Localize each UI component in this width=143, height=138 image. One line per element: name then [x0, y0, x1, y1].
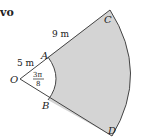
length-OA: 5 m	[17, 58, 35, 68]
length-AC: 9 m	[52, 29, 70, 39]
label-C: C	[104, 14, 112, 25]
label-D: D	[107, 125, 116, 136]
header-fragment: vo	[0, 6, 14, 19]
label-B: B	[41, 100, 49, 111]
angle-numerator: 3π	[33, 71, 42, 79]
angle-denominator: 8	[36, 80, 40, 88]
label-A: A	[40, 50, 48, 61]
sector-diagram: vo O A B C D 5 m 9 m 3π 8	[0, 0, 143, 138]
label-O: O	[10, 74, 18, 85]
